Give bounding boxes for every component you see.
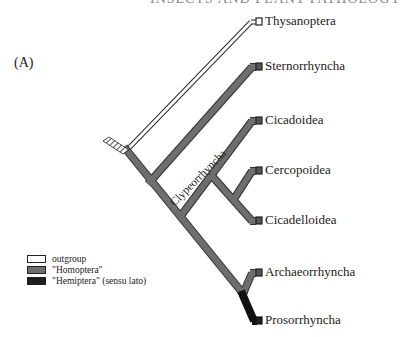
tip-box-cicadoidea bbox=[256, 117, 262, 124]
taxon-label-thysanoptera: Thysanoptera bbox=[265, 14, 336, 28]
tip-box-archaeorrhyncha bbox=[256, 269, 262, 276]
taxon-label-cicadoidea: Cicadoidea bbox=[265, 113, 323, 127]
tip-box-sternorrhyncha bbox=[256, 63, 262, 70]
taxon-label-archaeorrhyncha: Archaeorrhyncha bbox=[265, 265, 355, 279]
taxon-label-sternorrhyncha: Sternorrhyncha bbox=[265, 59, 345, 73]
legend-item-homoptera: "Homoptera" bbox=[27, 265, 146, 275]
legend-label: "Homoptera" bbox=[52, 265, 103, 275]
legend-label: outgroup bbox=[52, 254, 86, 264]
legend-item-hemiptera: "Hemiptera" (sensu lato) bbox=[27, 276, 146, 286]
taxon-label-cicadelloidea: Cicadelloidea bbox=[265, 213, 336, 227]
taxon-label-prosorrhyncha: Prosorrhyncha bbox=[265, 313, 341, 327]
legend: outgroup "Homoptera" "Hemiptera" (sensu … bbox=[27, 254, 146, 287]
legend-swatch-homoptera bbox=[27, 266, 46, 274]
tip-box-cicadelloidea bbox=[256, 217, 262, 224]
taxon-label-cercopoidea: Cercopoidea bbox=[265, 163, 331, 177]
branch-prosorrhyncha bbox=[241, 291, 257, 321]
tip-box-cercopoidea bbox=[256, 167, 262, 174]
legend-item-outgroup: outgroup bbox=[27, 254, 146, 264]
legend-label: "Hemiptera" (sensu lato) bbox=[52, 276, 146, 286]
legend-swatch-hemiptera bbox=[27, 277, 46, 285]
tip-box-thysanoptera bbox=[256, 18, 262, 25]
root-hatched-stem bbox=[103, 137, 129, 154]
legend-swatch-outgroup bbox=[27, 255, 46, 263]
tip-markers bbox=[256, 18, 262, 324]
tip-box-prosorrhyncha bbox=[256, 317, 262, 324]
